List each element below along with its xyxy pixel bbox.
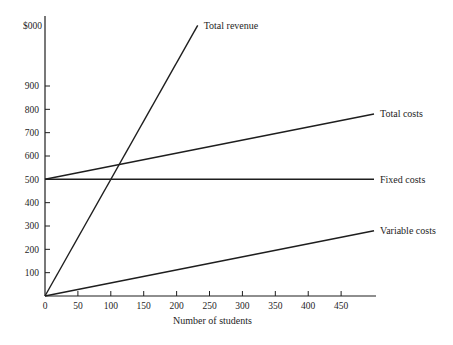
breakeven-chart: $000100200300400500600700800900050100150…: [0, 0, 453, 345]
series-label-total-costs: Total costs: [380, 108, 423, 119]
y-tick-label: 700: [25, 128, 40, 138]
y-tick-label: 800: [25, 105, 40, 115]
x-tick-label: 50: [73, 301, 83, 311]
x-tick-label: 150: [137, 301, 152, 311]
y-axis-unit-label: $000: [23, 21, 42, 31]
series-line-variable-costs: [45, 231, 374, 296]
series-label-total-revenue: Total revenue: [204, 20, 259, 31]
x-tick-label: 300: [235, 301, 250, 311]
x-tick-label: 450: [334, 301, 349, 311]
y-tick-label: 900: [25, 81, 40, 91]
figure-page: $000100200300400500600700800900050100150…: [0, 0, 453, 345]
x-tick-label: 0: [43, 301, 48, 311]
x-tick-label: 350: [268, 301, 283, 311]
x-tick-label: 100: [104, 301, 119, 311]
y-tick-label: 100: [25, 268, 40, 278]
x-tick-label: 200: [169, 301, 184, 311]
series-label-variable-costs: Variable costs: [380, 225, 436, 236]
y-tick-label: 400: [25, 198, 40, 208]
y-tick-label: 200: [25, 245, 40, 255]
x-axis-title: Number of students: [173, 315, 252, 326]
x-tick-label: 400: [301, 301, 316, 311]
y-tick-label: 300: [25, 221, 40, 231]
x-tick-label: 250: [202, 301, 217, 311]
y-tick-label: 600: [25, 151, 40, 161]
series-line-total-revenue: [45, 25, 198, 296]
series-label-fixed-costs: Fixed costs: [380, 174, 425, 185]
series-line-total-costs: [45, 114, 374, 179]
y-tick-label: 500: [25, 175, 40, 185]
